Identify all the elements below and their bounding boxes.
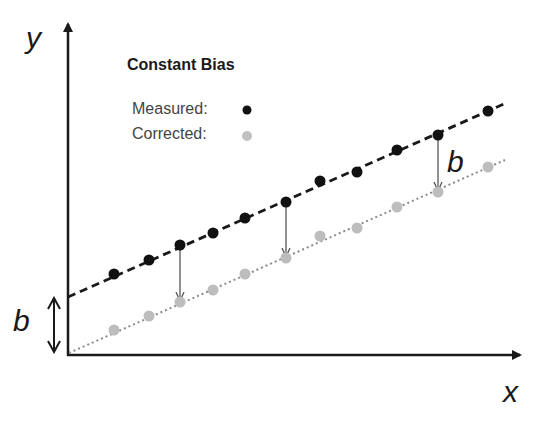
constant-bias-diagram: y x Constant Bias Measured: Corrected: — [0, 0, 545, 423]
y-axis-label: y — [24, 21, 43, 54]
legend-measured-label: Measured: — [132, 100, 208, 117]
legend-measured-marker — [243, 106, 252, 115]
legend-corrected-marker — [242, 131, 252, 141]
legend-corrected-label: Corrected: — [132, 125, 207, 142]
intercept-bias-label: b — [13, 304, 30, 337]
chart-title: Constant Bias — [127, 56, 235, 73]
point-bias-label: b — [447, 145, 464, 178]
x-axis-label: x — [501, 375, 519, 408]
